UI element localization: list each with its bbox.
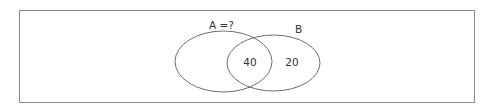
venn-diagram: A =? B 40 20	[0, 0, 499, 108]
set-a-label: A =?	[209, 19, 234, 31]
set-b-label: B	[295, 23, 302, 35]
set-b-only-value: 20	[285, 56, 298, 68]
intersection-value: 40	[243, 56, 256, 68]
venn-diagram-canvas: A =? B 40 20	[0, 0, 499, 108]
set-b-ellipse	[227, 35, 320, 91]
set-a-ellipse	[175, 31, 272, 92]
